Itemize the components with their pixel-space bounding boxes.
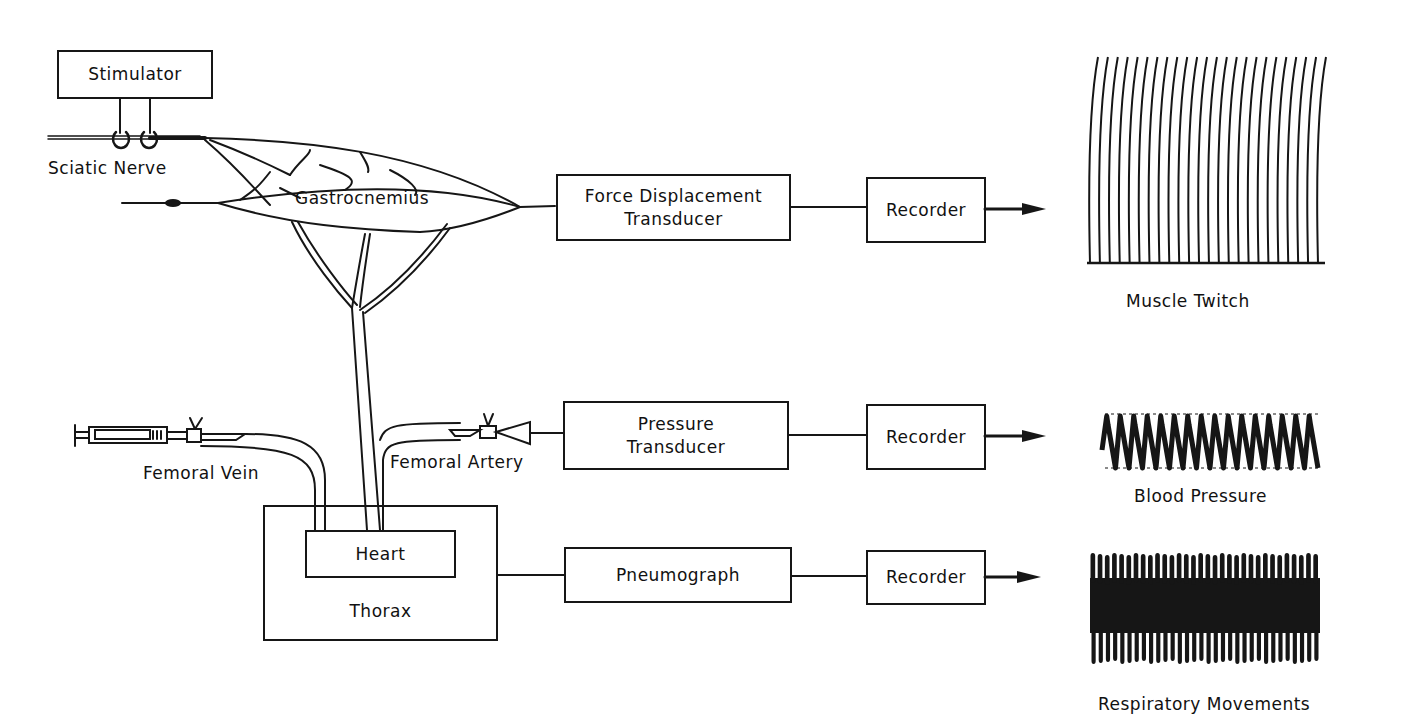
- muscle-twitch-trace: [1087, 57, 1326, 263]
- sciatic-nerve-drawing: [48, 132, 205, 148]
- heart-label: Heart: [356, 543, 406, 566]
- respiratory-movements-trace: [1090, 553, 1320, 664]
- pressure-transducer-label-line1: Pressure: [627, 413, 725, 436]
- sciatic-nerve-label: Sciatic Nerve: [48, 158, 167, 178]
- recorder-label: Recorder: [886, 199, 966, 222]
- pressure-transducer-box: Pressure Transducer: [563, 401, 789, 470]
- femoral-artery-label: Femoral Artery: [390, 452, 524, 472]
- arrow-head-icon: [1017, 571, 1041, 583]
- pneumograph-label: Pneumograph: [616, 564, 740, 587]
- recorder-label: Recorder: [886, 426, 966, 449]
- thorax-label: Thorax: [349, 600, 411, 623]
- vessel-tree-drawing: [292, 222, 450, 530]
- femoral-vein-label: Femoral Vein: [143, 463, 259, 483]
- heart-box: Heart: [305, 530, 456, 578]
- force-transducer-label-line2: Transducer: [585, 208, 762, 231]
- gastrocnemius-drawing: [122, 138, 555, 232]
- stimulator-box: Stimulator: [57, 50, 213, 99]
- muscle-twitch-label: Muscle Twitch: [1126, 291, 1250, 311]
- pressure-transducer-label-line2: Transducer: [627, 436, 725, 459]
- arrow-head-icon: [1022, 203, 1046, 215]
- force-transducer-label-line1: Force Displacement: [585, 185, 762, 208]
- blood-pressure-label: Blood Pressure: [1134, 486, 1267, 506]
- arrow-head-icon: [1022, 430, 1046, 442]
- output-arrows: [985, 209, 1025, 577]
- blood-pressure-trace: [1102, 414, 1320, 468]
- recorder-box-2: Recorder: [866, 404, 986, 470]
- force-transducer-box: Force Displacement Transducer: [556, 174, 791, 241]
- recorder-label: Recorder: [886, 566, 966, 589]
- recorder-box-1: Recorder: [866, 177, 986, 243]
- recorder-box-3: Recorder: [866, 550, 986, 605]
- pneumograph-box: Pneumograph: [564, 547, 792, 603]
- gastrocnemius-label: Gastrocnemius: [295, 188, 429, 208]
- stimulator-label: Stimulator: [88, 63, 182, 86]
- respiratory-movements-label: Respiratory Movements: [1098, 694, 1310, 714]
- diagram-drawing: [0, 0, 1401, 721]
